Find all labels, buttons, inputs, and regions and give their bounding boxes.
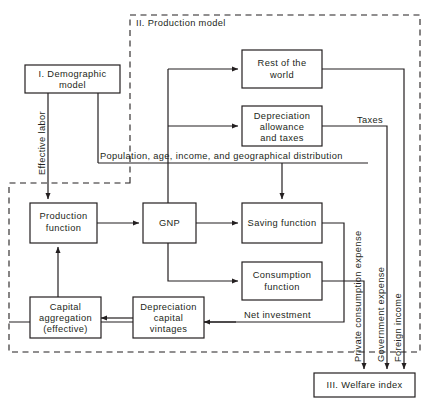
node-gnp[interactable]: GNP (143, 203, 196, 243)
node-depreciation-capital-vintages-line2: capital (154, 313, 183, 323)
node-demographic-model[interactable]: I. Demographic model (25, 65, 120, 93)
node-depreciation-capital-vintages-line1: Depreciation (140, 302, 196, 312)
edge-label-foreign-income: Foreign income (393, 293, 403, 362)
node-saving-function[interactable]: Saving function (242, 203, 322, 243)
node-rest-of-the-world-line2: world (269, 70, 294, 80)
region-label-production-model: II. Production model (136, 18, 226, 28)
edge-label-government-expense: Government expense (376, 267, 386, 362)
node-welfare-index-label: III. Welfare index (327, 380, 403, 390)
edge-label-net-investment: Net investment (244, 310, 311, 320)
node-depreciation-allowance-and-taxes[interactable]: Depreciation allowance and taxes (242, 106, 322, 146)
node-depreciation-allowance-and-taxes-line1: Depreciation (254, 111, 310, 121)
node-production-function-line1: Production (40, 211, 88, 221)
node-depreciation-allowance-and-taxes-line3: and taxes (260, 133, 303, 143)
link-gnp-to-consumption-function (168, 243, 238, 281)
node-rest-of-the-world-line1: Rest of the (258, 58, 307, 68)
flow-diagram-canvas: II. Production model I. Demographic mode (0, 0, 436, 404)
node-production-function[interactable]: Production function (30, 203, 97, 243)
node-saving-function-label: Saving function (248, 218, 317, 228)
node-capital-aggregation-line3: (effective) (43, 324, 88, 334)
link-rest-of-world-to-welfare-index (322, 69, 404, 369)
node-depreciation-capital-vintages-line3: vintages (150, 324, 187, 334)
node-consumption-function-line2: function (264, 282, 299, 292)
node-consumption-function[interactable]: Consumption function (242, 262, 322, 300)
edge-label-population: Population, age, income, and geographica… (100, 151, 343, 161)
node-capital-aggregation-line2: aggregation (39, 313, 92, 323)
edge-label-private-consumption-expense: Private consumption expense (353, 231, 363, 362)
node-consumption-function-line1: Consumption (253, 270, 312, 280)
node-depreciation-allowance-and-taxes-line2: allowance (260, 122, 305, 132)
node-demographic-model-line2: model (59, 80, 86, 90)
node-production-function-line2: function (46, 223, 81, 233)
node-capital-aggregation[interactable]: Capital aggregation (effective) (30, 297, 101, 338)
node-gnp-label: GNP (159, 218, 180, 228)
node-demographic-model-line1: I. Demographic (39, 69, 107, 79)
node-capital-aggregation-line1: Capital (50, 302, 81, 312)
edge-label-effective-labor: Effective labor (37, 111, 47, 175)
edge-label-taxes: Taxes (357, 115, 383, 125)
node-rest-of-the-world-shape (242, 50, 322, 88)
node-depreciation-capital-vintages[interactable]: Depreciation capital vintages (133, 297, 204, 338)
node-welfare-index[interactable]: III. Welfare index (314, 373, 415, 397)
node-rest-of-the-world[interactable]: Rest of the world (242, 50, 322, 88)
node-consumption-function-shape (242, 262, 322, 300)
